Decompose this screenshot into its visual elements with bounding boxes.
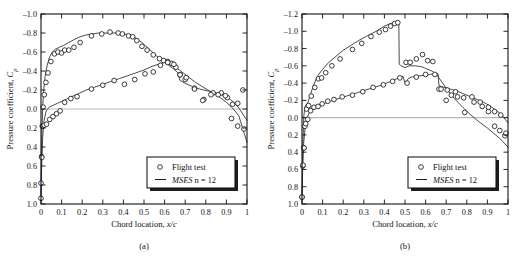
data-point [359, 41, 364, 46]
y-tick-label: 0.8 [27, 181, 37, 190]
panel-caption: (a) [139, 241, 149, 251]
y-tick-label: 0.4 [27, 143, 37, 152]
data-point [405, 81, 410, 86]
x-tick-label: 0.3 [359, 208, 369, 217]
data-point [66, 48, 71, 53]
data-point [200, 98, 205, 103]
legend-label-mses-italic: MSES [432, 176, 454, 185]
data-point [301, 163, 306, 168]
data-point [209, 92, 214, 97]
data-point [216, 92, 221, 97]
data-point [230, 102, 235, 107]
x-tick-label: 0.6 [420, 208, 430, 217]
data-point [425, 58, 430, 63]
data-point [165, 60, 170, 65]
y-tick-label: –0.2 [22, 86, 37, 95]
data-point [462, 110, 467, 115]
data-point [381, 82, 386, 87]
x-axis-title-plain: Chord location, [111, 219, 167, 229]
data-point [383, 27, 388, 32]
data-point [492, 124, 497, 129]
data-point [99, 32, 104, 37]
y-axis-title-sub: p [11, 68, 18, 72]
y-tick-label: –0.8 [22, 29, 37, 38]
data-point [235, 101, 240, 106]
data-point [430, 59, 435, 64]
data-point [229, 116, 234, 121]
data-point [120, 32, 125, 37]
data-point [455, 95, 460, 100]
legend-label-flight-test: Flight test [172, 163, 206, 172]
y-tick-label: 0.6 [288, 165, 298, 174]
y-tick-label: –0.8 [283, 45, 298, 54]
data-point [371, 85, 376, 90]
x-tick-label: 0.3 [98, 208, 108, 217]
data-point [58, 109, 63, 114]
data-point [338, 57, 343, 62]
y-axis-title-plain: Pressure coefficient, [5, 77, 15, 149]
x-tick-label: 1 [506, 208, 510, 217]
data-point [184, 75, 189, 80]
x-axis-title: Chord location, x/c [111, 219, 177, 229]
data-point [398, 76, 403, 81]
data-point [108, 30, 113, 35]
data-point [332, 97, 337, 102]
x-tick-label: 0.6 [159, 208, 169, 217]
y-tick-label: 0.8 [288, 183, 298, 192]
data-point [46, 71, 51, 76]
data-point [377, 30, 382, 35]
data-point [360, 89, 365, 94]
y-tick-label: 0.6 [27, 162, 37, 171]
data-point [325, 99, 330, 104]
y-axis-title-plain: Pressure coefficient, [266, 77, 276, 149]
data-point [223, 93, 228, 98]
chart-b-svg: 00.10.20.30.40.50.60.70.80.91–1.2–1.0–0.… [261, 0, 522, 261]
data-point [350, 47, 355, 52]
x-tick-label: 0.7 [441, 208, 451, 217]
x-tick-label: 0.4 [118, 208, 128, 217]
y-tick-label: –1.0 [22, 10, 37, 19]
data-point [330, 63, 335, 68]
legend-label-mses: MSES n = 12 [171, 176, 216, 185]
y-tick-label: –0.2 [283, 96, 298, 105]
data-point [472, 100, 477, 105]
chart-a-svg: 00.10.20.30.40.50.60.70.80.91–1.0–0.8–0.… [0, 0, 261, 261]
data-point [414, 75, 419, 80]
data-point [414, 57, 419, 62]
data-point [151, 70, 156, 75]
data-point [470, 95, 475, 100]
legend-label-mses-rest: n = 12 [453, 176, 477, 185]
x-axis-title: Chord location, x/c [372, 219, 438, 229]
data-point [449, 93, 454, 98]
x-tick-label: 0.8 [201, 208, 211, 217]
data-point [130, 34, 135, 39]
data-point [69, 96, 74, 101]
data-point [492, 109, 497, 114]
data-point [408, 60, 413, 65]
x-axis-title-plain: Chord location, [372, 219, 428, 229]
data-point [132, 77, 137, 82]
legend-label-mses-italic: MSES [171, 176, 193, 185]
data-point [312, 85, 317, 90]
data-point [75, 94, 80, 99]
x-tick-label: 0.4 [379, 208, 389, 217]
data-point [350, 93, 355, 98]
data-point [439, 87, 444, 92]
y-tick-label: 0.4 [288, 148, 298, 157]
panel-caption: (b) [400, 241, 410, 251]
data-point [192, 87, 197, 92]
panel-a: 00.10.20.30.40.50.60.70.80.91–1.0–0.8–0.… [0, 0, 261, 261]
data-point [178, 72, 183, 77]
y-tick-label: –0.6 [22, 48, 37, 57]
legend-label-flight-test: Flight test [433, 163, 467, 172]
y-axis-title-sub: p [272, 68, 279, 72]
data-point [72, 45, 77, 50]
data-point [78, 40, 83, 45]
data-point [444, 98, 449, 103]
data-point [486, 105, 491, 110]
data-point [423, 72, 428, 77]
legend-label-mses-rest: n = 12 [192, 176, 216, 185]
x-tick-label: 0.9 [482, 208, 492, 217]
data-point [420, 52, 425, 57]
x-tick-label: 0.5 [139, 208, 149, 217]
